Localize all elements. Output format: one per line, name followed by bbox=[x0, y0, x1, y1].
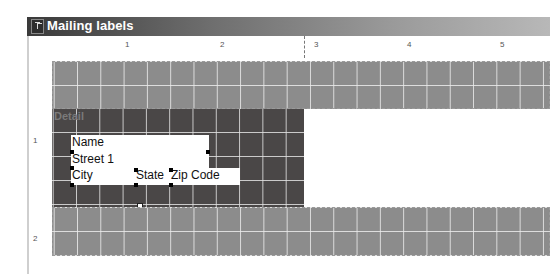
selection-handle[interactable] bbox=[169, 183, 173, 187]
name-field[interactable]: Name bbox=[71, 135, 209, 152]
window-titlebar[interactable]: Mailing labels bbox=[27, 17, 550, 36]
designer-left-border bbox=[27, 36, 29, 274]
selection-handle[interactable] bbox=[70, 150, 74, 154]
window-title: Mailing labels bbox=[47, 18, 134, 33]
report-designer-icon bbox=[31, 19, 44, 34]
zip-code-field[interactable]: Zip Code bbox=[170, 168, 240, 185]
ruler-tick-5: 5 bbox=[500, 40, 504, 49]
vertical-ruler-tick-1: 1 bbox=[33, 136, 37, 145]
selection-handle[interactable] bbox=[134, 168, 138, 172]
vertical-ruler-tick-2: 2 bbox=[33, 234, 37, 243]
ruler-tick-3: 3 bbox=[314, 40, 318, 49]
ruler-tick-1: 1 bbox=[125, 40, 129, 49]
selection-handle[interactable] bbox=[70, 166, 74, 170]
street-field[interactable]: Street 1 bbox=[71, 152, 209, 169]
selection-handle[interactable] bbox=[169, 168, 173, 172]
right-margin-marker[interactable] bbox=[304, 36, 305, 58]
city-field[interactable]: City bbox=[71, 168, 135, 185]
selection-handle[interactable] bbox=[134, 183, 138, 187]
page-footer-band[interactable] bbox=[52, 207, 550, 256]
selection-handle[interactable] bbox=[206, 150, 210, 154]
page-header-band[interactable] bbox=[52, 61, 550, 109]
selection-handle[interactable] bbox=[70, 183, 74, 187]
ruler-tick-2: 2 bbox=[220, 40, 224, 49]
horizontal-ruler: 1 2 3 4 5 bbox=[29, 36, 550, 52]
detail-band-label: Detail bbox=[54, 110, 84, 122]
ruler-tick-4: 4 bbox=[407, 40, 411, 49]
state-field[interactable]: State bbox=[135, 168, 170, 185]
